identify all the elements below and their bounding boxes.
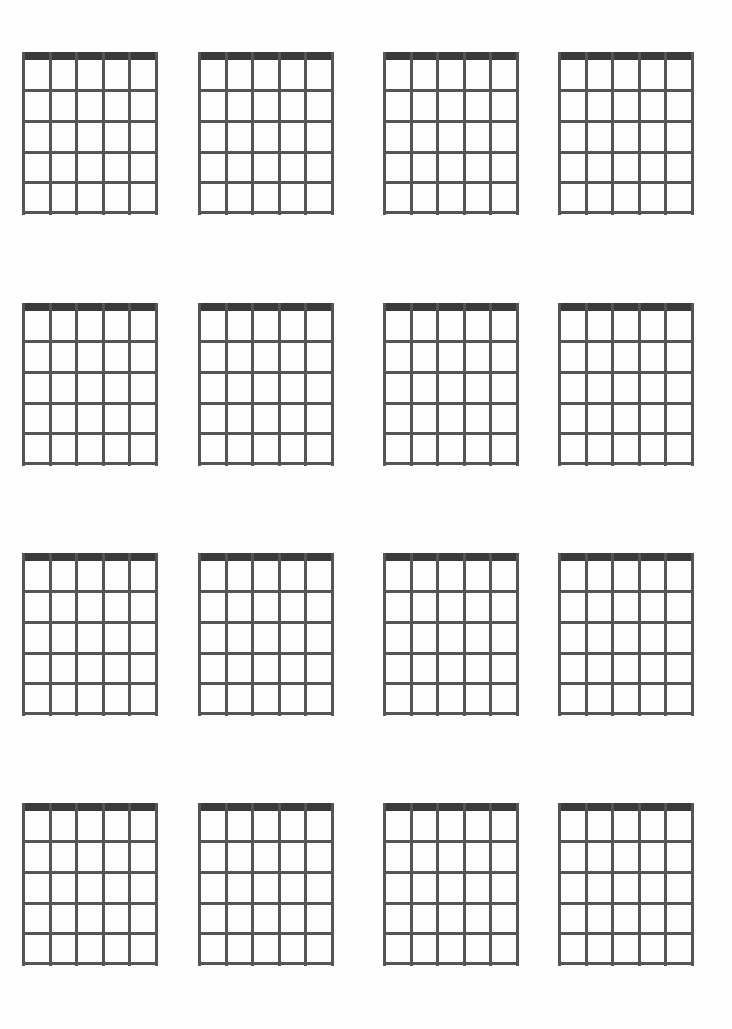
chord-diagram[interactable] — [22, 303, 158, 466]
nut-bar — [198, 303, 334, 311]
chord-diagram[interactable] — [383, 303, 519, 466]
chord-diagram-row — [0, 553, 732, 716]
chord-diagram[interactable] — [383, 803, 519, 966]
nut-bar — [22, 803, 158, 811]
chord-diagram[interactable] — [198, 52, 334, 215]
chord-diagram[interactable] — [22, 52, 158, 215]
nut-bar — [558, 803, 694, 811]
chord-diagram-row — [0, 303, 732, 466]
chord-diagram[interactable] — [198, 553, 334, 716]
chord-diagram[interactable] — [383, 52, 519, 215]
nut-bar — [383, 553, 519, 561]
chord-diagram[interactable] — [198, 803, 334, 966]
chord-diagram[interactable] — [558, 303, 694, 466]
chord-diagram-row — [0, 803, 732, 966]
chord-sheet — [0, 0, 732, 1029]
nut-bar — [558, 303, 694, 311]
nut-bar — [22, 52, 158, 60]
nut-bar — [558, 52, 694, 60]
nut-bar — [198, 803, 334, 811]
chord-diagram[interactable] — [198, 303, 334, 466]
chord-diagram[interactable] — [22, 803, 158, 966]
nut-bar — [198, 553, 334, 561]
chord-diagram[interactable] — [22, 553, 158, 716]
nut-bar — [558, 553, 694, 561]
chord-diagram[interactable] — [558, 803, 694, 966]
chord-diagram[interactable] — [558, 52, 694, 215]
nut-bar — [383, 303, 519, 311]
chord-diagram[interactable] — [383, 553, 519, 716]
chord-diagram[interactable] — [558, 553, 694, 716]
nut-bar — [383, 52, 519, 60]
chord-diagram-row — [0, 52, 732, 215]
nut-bar — [22, 553, 158, 561]
nut-bar — [22, 303, 158, 311]
nut-bar — [198, 52, 334, 60]
nut-bar — [383, 803, 519, 811]
